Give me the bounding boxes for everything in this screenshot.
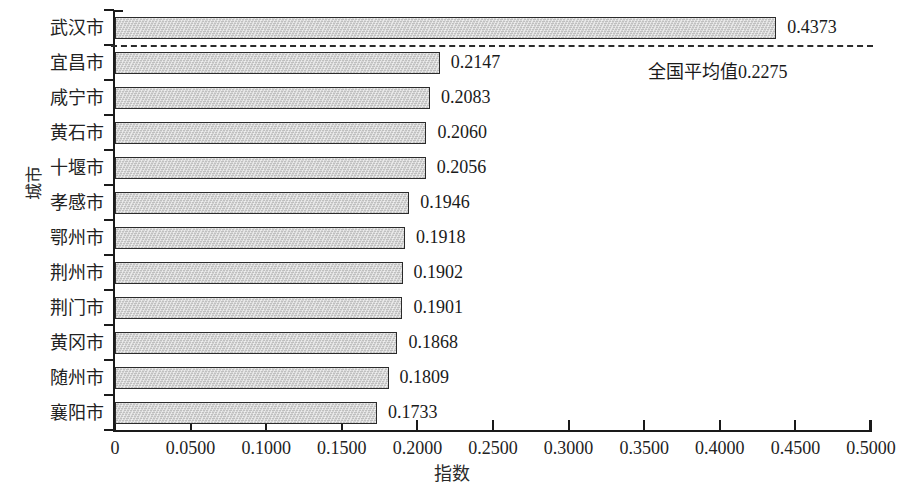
bar-value-label: 0.1946	[420, 192, 470, 213]
x-axis-tick	[794, 420, 796, 432]
y-axis-tick	[104, 149, 114, 151]
y-axis-tick	[104, 219, 114, 221]
x-axis-tick-label: 0	[111, 438, 120, 459]
bar	[115, 297, 402, 319]
bar	[115, 122, 426, 144]
x-axis-tick	[719, 420, 721, 432]
y-axis-tick	[104, 359, 114, 361]
bar-value-label: 0.1733	[388, 402, 438, 423]
category-label: 荆州市	[0, 264, 110, 282]
bar-chart-figure: 城市 武汉市宜昌市咸宁市黄石市十堰市孝感市鄂州市荆州市荆门市黄冈市随州市襄阳市 …	[0, 0, 903, 490]
bar	[115, 262, 403, 284]
x-axis-tick-label: 0.3500	[619, 438, 669, 459]
x-axis-tick	[492, 420, 494, 432]
national-average-line	[111, 45, 873, 47]
bar-value-label: 0.2056	[437, 157, 487, 178]
x-axis-tick	[643, 420, 645, 432]
category-label: 襄阳市	[0, 404, 110, 422]
plot-area: 00.05000.10000.15000.20000.25000.30000.3…	[115, 10, 871, 430]
x-axis-tick-label: 0.4000	[695, 438, 745, 459]
category-label: 孝感市	[0, 194, 110, 212]
category-label: 黄冈市	[0, 334, 110, 352]
category-label: 鄂州市	[0, 229, 110, 247]
bar	[115, 52, 440, 74]
y-axis-tick	[104, 79, 114, 81]
bar	[115, 227, 405, 249]
category-label: 黄石市	[0, 124, 110, 142]
x-axis-tick-label: 0.3000	[544, 438, 594, 459]
bar-value-label: 0.2083	[441, 87, 491, 108]
x-axis-title: 指数	[0, 459, 903, 485]
bar-value-label: 0.1901	[413, 297, 463, 318]
x-axis-tick-label: 0.5000	[846, 438, 896, 459]
x-axis-tick-label: 0.1500	[317, 438, 367, 459]
y-axis-tick	[104, 254, 114, 256]
x-axis-tick-label: 0.4500	[771, 438, 821, 459]
y-axis-tick	[104, 184, 114, 186]
x-axis-tick	[568, 420, 570, 432]
bar	[115, 367, 389, 389]
y-axis-tick	[104, 289, 114, 291]
category-label: 宜昌市	[0, 54, 110, 72]
category-axis-labels: 武汉市宜昌市咸宁市黄石市十堰市孝感市鄂州市荆州市荆门市黄冈市随州市襄阳市	[0, 0, 110, 430]
category-label: 十堰市	[0, 159, 110, 177]
bar	[115, 17, 776, 39]
bar	[115, 87, 430, 109]
y-axis-tick	[104, 429, 114, 431]
category-label: 武汉市	[0, 19, 110, 37]
y-axis-tick	[104, 394, 114, 396]
x-axis-tick-label: 0.0500	[166, 438, 216, 459]
bar	[115, 332, 397, 354]
bar-value-label: 0.2147	[451, 52, 501, 73]
bar-value-label: 0.4373	[787, 17, 837, 38]
national-average-label: 全国平均值0.2275	[648, 57, 788, 83]
bar	[115, 402, 377, 424]
bar-value-label: 0.1902	[414, 262, 464, 283]
bar	[115, 157, 426, 179]
bar-value-label: 0.2060	[437, 122, 487, 143]
bar-value-label: 0.1809	[400, 367, 450, 388]
x-axis-tick-label: 0.2500	[468, 438, 518, 459]
category-label: 荆门市	[0, 299, 110, 317]
category-label: 随州市	[0, 369, 110, 387]
bar-value-label: 0.1918	[416, 227, 466, 248]
x-axis-tick	[870, 420, 872, 432]
bar	[115, 192, 409, 214]
y-axis-tick	[104, 114, 114, 116]
y-axis-tick	[104, 324, 114, 326]
y-axis-tick	[104, 9, 114, 11]
category-label: 咸宁市	[0, 89, 110, 107]
x-axis-tick-label: 0.1000	[241, 438, 291, 459]
bar-value-label: 0.1868	[408, 332, 458, 353]
y-axis-top-cap	[113, 10, 123, 12]
x-axis-tick-label: 0.2000	[393, 438, 443, 459]
